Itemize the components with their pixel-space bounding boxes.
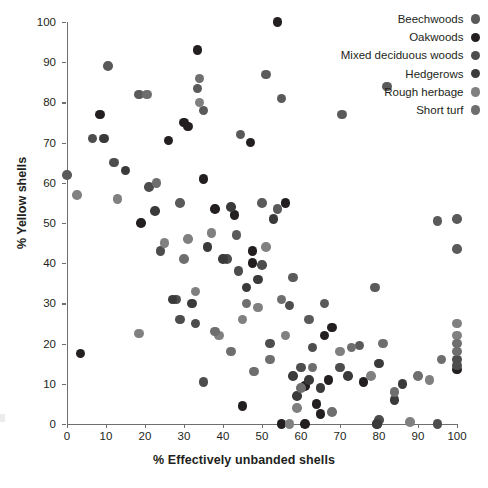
legend-marker-icon [471,51,481,61]
data-point [285,301,295,311]
data-point [265,355,275,365]
legend-item-label: Oakwoods [409,31,463,43]
data-point [269,214,279,224]
data-point [253,303,263,313]
data-point [372,419,382,429]
data-point [320,331,330,341]
x-tick-label-50: 50 [256,430,269,442]
x-tick-90 [418,424,419,428]
data-point [378,339,388,349]
x-tick-label-80: 80 [373,430,386,442]
data-point [226,202,236,212]
data-point [324,375,334,385]
data-point [253,275,263,285]
data-point [296,383,306,393]
x-axis-label: % Effectively unbanded shells [0,453,488,467]
data-point [232,230,242,240]
y-tick-label-10: 10 [22,378,56,390]
y-tick-100 [62,22,66,23]
data-point [103,61,113,71]
data-point [257,198,267,208]
legend-item-short-turf[interactable]: Short turf [350,101,480,119]
data-point [76,349,86,359]
data-point [248,258,258,268]
data-point [249,367,259,377]
data-point [121,166,131,176]
data-point [288,273,298,283]
data-point [452,339,462,349]
legend-marker-icon [471,14,481,24]
x-tick-label-10: 10 [100,430,113,442]
y-tick-label-0: 0 [22,418,56,430]
y-tick-label-90: 90 [22,56,56,68]
data-point [288,371,298,381]
data-point [199,377,209,387]
data-point [183,234,193,244]
y-tick-label-20: 20 [22,338,56,350]
data-point [248,246,258,256]
data-point [109,158,119,168]
y-axis-label: % Yellow shells [15,93,29,313]
data-point [199,106,209,116]
data-point [168,295,178,305]
data-point [242,283,252,293]
data-point [203,242,213,252]
x-tick-20 [145,424,146,428]
data-point [304,315,314,325]
legend-marker-icon [471,33,481,43]
data-point [246,138,256,148]
y-tick-70 [62,143,66,144]
y-tick-label-100: 100 [22,16,56,28]
data-point [88,134,98,144]
data-point [452,244,462,254]
data-point [238,315,248,325]
x-tick-70 [340,424,341,428]
data-point [316,383,326,393]
legend-marker-icon [471,69,481,79]
data-point [193,84,203,94]
legend-item-rough-herbage[interactable]: Rough herbage [350,83,480,101]
x-tick-10 [106,424,107,428]
data-point [452,347,462,357]
legend-item-beechwoods[interactable]: Beechwoods [350,10,480,28]
legend-item-oakwoods[interactable]: Oakwoods [350,28,480,46]
x-tick-label-70: 70 [334,430,347,442]
data-point [191,319,201,329]
x-tick-label-30: 30 [178,430,191,442]
x-tick-50 [262,424,263,428]
data-point [242,299,252,309]
data-point [433,419,443,429]
legend-item-mixed-deciduous-woods[interactable]: Mixed deciduous woods [350,46,480,64]
data-point [113,194,123,204]
data-point [257,260,267,270]
data-point [452,214,462,224]
legend-item-hedgerows[interactable]: Hedgerows [350,65,480,83]
x-tick-label-20: 20 [139,430,152,442]
data-point [207,228,217,238]
legend-item-label: Rough herbage [384,86,463,98]
data-point [355,341,365,351]
legend: BeechwoodsOakwoodsMixed deciduous woodsH… [350,10,480,119]
data-point [452,319,462,329]
data-point [366,371,376,381]
data-point [199,174,209,184]
data-point [437,355,447,365]
data-point [277,94,287,104]
y-tick-10 [62,384,66,385]
data-point [134,329,144,339]
legend-item-label: Beechwoods [398,13,464,25]
x-tick-label-90: 90 [412,430,425,442]
data-point [347,343,357,353]
y-tick-0 [62,424,66,425]
data-point [183,122,193,132]
scatter-plot-figure: 0102030405060708090100 01020304050607080… [0,0,488,488]
x-tick-100 [457,424,458,428]
x-tick-label-100: 100 [447,430,466,442]
x-tick-label-0: 0 [64,430,70,442]
page-edge-artifact [0,414,5,422]
data-point [142,90,152,100]
data-point [304,375,314,385]
data-point [265,339,275,349]
x-tick-0 [67,424,68,428]
y-tick-60 [62,183,66,184]
